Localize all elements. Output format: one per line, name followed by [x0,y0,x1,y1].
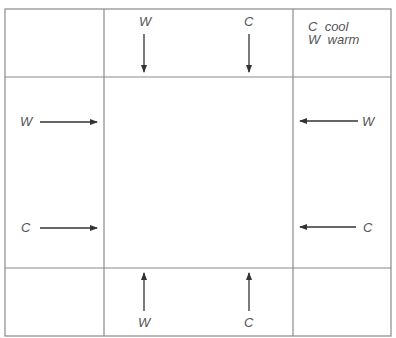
grid-lines [0,0,396,338]
arrow-label-bottom-right: C [244,316,253,330]
arrow-label-right-top: W [362,115,374,129]
legend: C cool W warm [308,20,359,46]
legend-symbol: W [308,32,320,47]
outer-border [5,9,391,336]
legend-meaning: warm [328,32,360,47]
airflow-grid-diagram: W C W C W C W C C cool W warm [0,0,396,338]
arrow-label-left-top: W [20,115,32,129]
legend-entry-warm: W warm [308,33,359,46]
arrow-label-bottom-left: W [138,316,150,330]
arrow-label-left-bottom: C [21,221,30,235]
arrow-label-right-bottom: C [363,221,372,235]
arrow-label-top-left: W [139,15,151,29]
arrow-label-top-right: C [244,15,253,29]
